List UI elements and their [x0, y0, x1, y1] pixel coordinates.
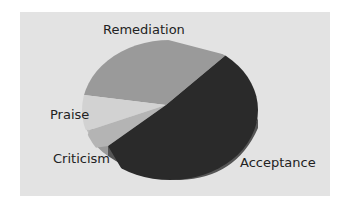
label-remediation: Remediation	[103, 22, 185, 37]
label-criticism: Criticism	[53, 151, 110, 166]
label-praise: Praise	[50, 107, 89, 122]
label-acceptance: Acceptance	[240, 155, 316, 170]
